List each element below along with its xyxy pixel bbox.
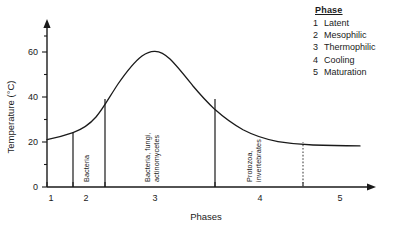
legend-item-2: 2 Mesophilic: [313, 29, 399, 41]
x-axis-title: Phases: [190, 211, 222, 222]
legend-item-4: 4 Cooling: [313, 54, 399, 66]
legend-number-2: 2: [313, 29, 324, 41]
x-tick-label-2: 2: [83, 193, 88, 203]
annotation-bacteria: Bacteria: [82, 155, 91, 182]
y-axis-arrowhead: [43, 19, 50, 28]
y-tick-label-40: 40: [28, 92, 38, 102]
x-tick-label-4: 4: [257, 193, 262, 203]
legend-label-5: Maturation: [324, 66, 399, 78]
legend-item-3: 3 Thermophilic: [313, 41, 399, 53]
annotation-protozoa-line2: invertebrates: [254, 139, 263, 182]
compost-temperature-chart: 0 20 40 60 Temperature (°C) 1 2 3 4 5 Ph…: [0, 0, 401, 230]
x-axis-arrowhead: [367, 183, 376, 190]
legend-label-2: Mesophilic: [324, 29, 399, 41]
legend-label-3: Thermophilic: [324, 41, 399, 53]
x-tick-label-3: 3: [152, 193, 157, 203]
legend-number-3: 3: [313, 41, 324, 53]
legend-item-1: 1 Latent: [313, 17, 399, 29]
annotation-bacteria-fungi-line2: actinomycetes: [152, 134, 161, 182]
y-tick-label-20: 20: [28, 137, 38, 147]
legend-label-4: Cooling: [324, 54, 399, 66]
phase-legend: Phase 1 Latent 2 Mesophilic 3 Thermophil…: [313, 4, 399, 78]
y-axis-title: Temperature (°C): [5, 81, 16, 154]
y-tick-label-0: 0: [33, 182, 38, 192]
x-tick-label-1: 1: [48, 193, 53, 203]
legend-item-5: 5 Maturation: [313, 66, 399, 78]
legend-number-5: 5: [313, 66, 324, 78]
y-tick-label-60: 60: [28, 47, 38, 57]
legend-title: Phase: [315, 4, 399, 16]
legend-number-4: 4: [313, 54, 324, 66]
annotation-bacteria-fungi-line1: Bacteria, fungi,: [143, 132, 152, 182]
x-tick-label-5: 5: [337, 193, 342, 203]
legend-number-1: 1: [313, 17, 324, 29]
annotation-protozoa-line1: Protozoa,: [245, 150, 254, 182]
legend-label-1: Latent: [324, 17, 399, 29]
